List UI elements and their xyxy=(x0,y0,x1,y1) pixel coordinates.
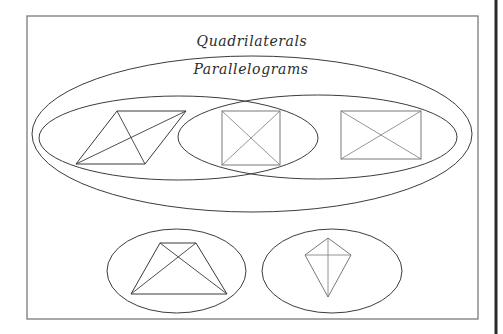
trapezoid-diagonal-2 xyxy=(131,243,196,294)
parallelograms-ellipse xyxy=(32,56,472,212)
trapezoids-ellipse xyxy=(107,229,246,313)
square-figure xyxy=(222,111,280,165)
trapezoid-outline xyxy=(131,243,227,294)
rectangle-figure xyxy=(341,111,421,159)
rhombus-figure xyxy=(76,111,186,164)
parallelograms-label: Parallelograms xyxy=(192,61,308,77)
right-edge-bar xyxy=(495,0,498,334)
trapezoid-figure xyxy=(131,243,227,294)
quadrilaterals-label: Quadrilaterals xyxy=(197,33,308,49)
kite-figure xyxy=(305,238,351,297)
quadrilaterals-diagram: Quadrilaterals Parallelograms xyxy=(0,0,503,334)
kites-ellipse xyxy=(262,229,402,313)
trapezoid-diagonal-1 xyxy=(160,243,227,294)
rhombus-diagonal-2 xyxy=(76,111,186,164)
